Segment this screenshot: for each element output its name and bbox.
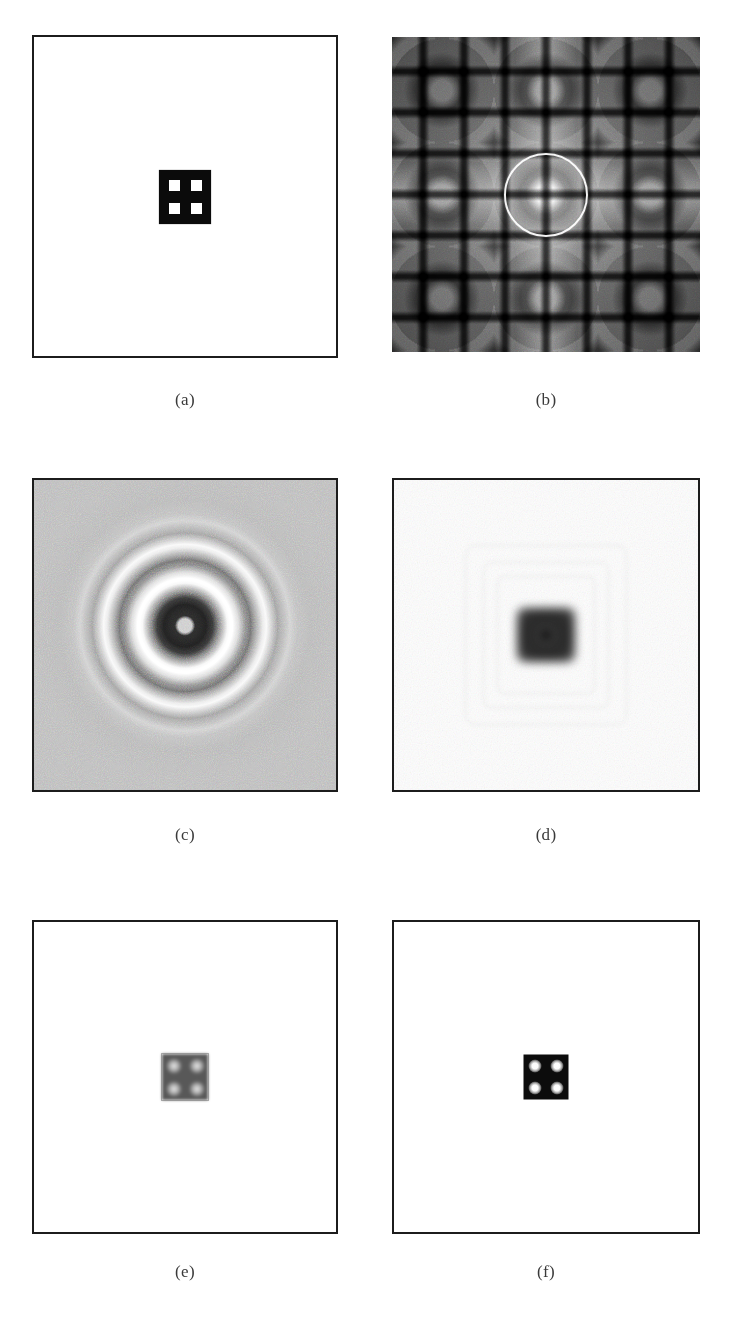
panel-a-frame	[32, 35, 338, 358]
panel-f-caption: (f)	[392, 1262, 700, 1282]
aperture-hole	[169, 180, 180, 191]
panel-d-caption: (d)	[392, 825, 700, 845]
panel-a-caption: (a)	[32, 390, 338, 410]
soft-reconstruction-edge	[161, 1053, 209, 1101]
panel-f-frame	[392, 920, 700, 1234]
panel-d-noise-overlay	[394, 480, 698, 790]
panel-b-caption: (b)	[392, 390, 700, 410]
panel-f	[392, 920, 700, 1234]
aperture-hole	[191, 180, 202, 191]
panel-d	[392, 478, 700, 792]
aperture-hole	[169, 203, 180, 214]
panel-c-frame	[32, 478, 338, 792]
sharp-blob	[551, 1082, 564, 1095]
sharp-blob	[528, 1082, 541, 1095]
lowpass-cutoff-circle	[504, 153, 588, 237]
sharp-blob	[551, 1059, 564, 1072]
psf-noise-overlay	[34, 480, 336, 790]
panel-d-frame	[392, 478, 700, 792]
sharp-blob	[528, 1059, 541, 1072]
panel-c-caption: (c)	[32, 825, 338, 845]
panel-b-frame	[392, 37, 700, 352]
panel-a	[32, 35, 338, 358]
aperture-block-a	[159, 170, 211, 224]
panel-e-frame	[32, 920, 338, 1234]
sharp-reconstruction-block	[524, 1055, 569, 1100]
panel-e	[32, 920, 338, 1234]
panel-b	[392, 37, 700, 352]
figure-container: (a) (b) (c)	[0, 0, 733, 1335]
panel-e-caption: (e)	[32, 1262, 338, 1282]
aperture-hole	[191, 203, 202, 214]
panel-c	[32, 478, 338, 792]
